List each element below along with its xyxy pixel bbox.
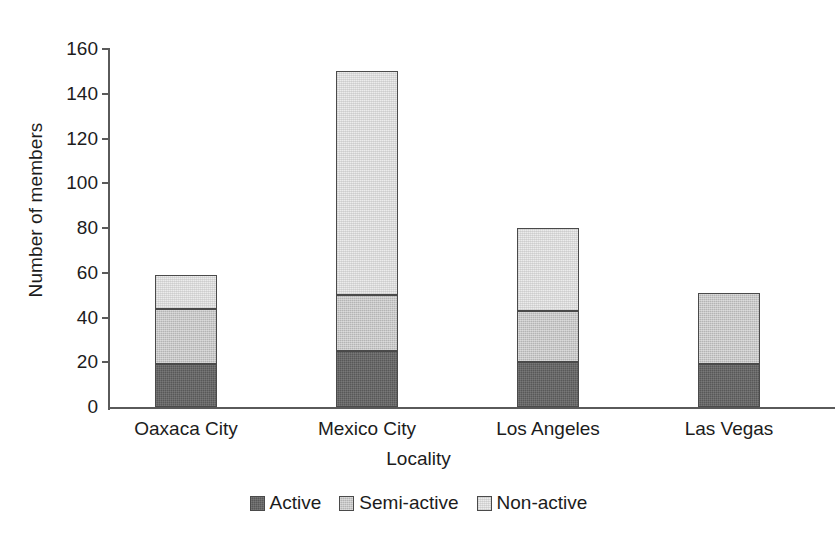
plot-area [108,50,831,408]
legend-item-non-active: Non-active [477,492,588,514]
y-axis-tick-80: 80 [28,218,98,237]
legend-label: Semi-active [359,492,458,514]
legend-swatch-icon [477,496,492,511]
y-axis-tick-20: 20 [28,352,98,371]
legend-swatch-icon [250,496,265,511]
legend-label: Non-active [497,492,588,514]
bar-segment [698,364,760,407]
x-axis-label-las-vegas: Las Vegas [629,418,829,440]
y-axis-tick-40: 40 [28,308,98,327]
bar-segment [336,295,398,351]
chart-legend: ActiveSemi-activeNon-active [0,492,837,514]
bar-segment [155,364,217,407]
bar-segment [517,228,579,311]
bar-stack [517,228,579,407]
y-axis-tick-140: 140 [28,84,98,103]
y-axis-tick-60: 60 [28,263,98,282]
legend-label: Active [270,492,322,514]
bar-segment [698,293,760,365]
bar-segment [517,311,579,362]
stacked-bar-chart: Number of members 020406080100120140160 … [0,0,837,549]
y-axis-tick-160: 160 [28,39,98,58]
x-axis-label-mexico-city: Mexico City [267,418,467,440]
legend-item-active: Active [250,492,322,514]
x-axis-label-los-angeles: Los Angeles [448,418,648,440]
legend-item-semi-active: Semi-active [339,492,458,514]
y-axis-tick-100: 100 [28,173,98,192]
bar-stack [155,275,217,407]
legend-swatch-icon [339,496,354,511]
bar-stack [336,71,398,407]
bar-segment [155,309,217,365]
y-axis-tick-0: 0 [28,397,98,416]
bar-segment [336,71,398,295]
bar-stack [698,293,760,407]
x-axis-title: Locality [0,448,837,470]
bar-segment [517,362,579,407]
x-axis-label-oaxaca-city: Oaxaca City [86,418,286,440]
bar-segment [336,351,398,407]
y-axis-tick-120: 120 [28,129,98,148]
bar-segment [155,275,217,309]
